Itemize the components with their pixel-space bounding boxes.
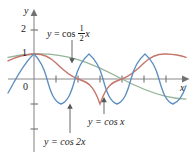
x-axis	[8, 75, 190, 82]
origin-label: 0	[23, 82, 28, 92]
fraction-denominator: 2	[78, 33, 84, 43]
label-cos-half-x-var: x	[85, 28, 89, 39]
cosine-graphs-figure: y x 0 2 1 y = cos 12x y = cos x y = cos …	[0, 0, 194, 159]
y-tick-label-1: 1	[22, 48, 27, 58]
x-axis-label: x	[180, 83, 184, 93]
fraction-one-half: 12	[78, 24, 84, 42]
fraction-numerator: 1	[78, 24, 84, 33]
label-cos-x: y = cos x	[88, 117, 124, 127]
y-tick-label-2: 2	[21, 24, 26, 34]
arrow-to-cos-half-x	[69, 40, 75, 64]
curve-cos-half-x	[8, 54, 186, 99]
arrow-to-cos-2x	[67, 104, 73, 134]
label-cos-half-x-cos: cos	[62, 28, 75, 39]
label-cos-half-x: y = cos 12x	[47, 24, 90, 42]
label-cos-2x: y = cos 2x	[44, 137, 85, 147]
y-axis-label: y	[24, 6, 28, 16]
plot-canvas	[0, 0, 194, 159]
